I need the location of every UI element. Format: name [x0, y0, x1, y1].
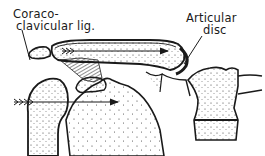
anatomy-figure: Coraco- clavicular lig. Articular disc — [0, 0, 265, 156]
coracoclavicular-label-line2: clavicular lig. — [16, 20, 95, 32]
acromion — [29, 47, 51, 59]
articular-disc-label-line2: disc — [203, 24, 227, 36]
humerus — [28, 79, 68, 156]
sternum — [146, 67, 262, 140]
